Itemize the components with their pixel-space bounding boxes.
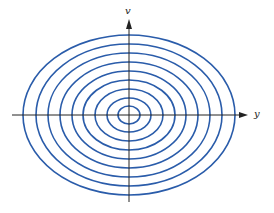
horizontal-axis-label: y [254,108,260,119]
x-axis-arrow-icon [239,112,248,118]
phase-portrait: v y [0,0,274,213]
y-axis-arrow-icon [126,19,132,29]
vertical-axis-label: v [125,5,131,16]
ellipse-plot [0,0,274,213]
